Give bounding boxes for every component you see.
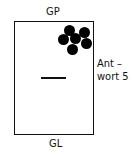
- side-label-line-1: Ant –: [97, 57, 129, 70]
- side-label-line-2: wort 5: [97, 70, 129, 83]
- dot-6: [67, 44, 78, 55]
- top-label-gp: GP: [46, 6, 60, 18]
- dot-4: [70, 33, 81, 44]
- dot-5: [81, 38, 92, 49]
- dot-3: [58, 34, 69, 45]
- horizontal-dash-line: [41, 77, 66, 79]
- side-label-answer: Ant – wort 5: [97, 57, 129, 83]
- bottom-label-gl: GL: [49, 138, 62, 150]
